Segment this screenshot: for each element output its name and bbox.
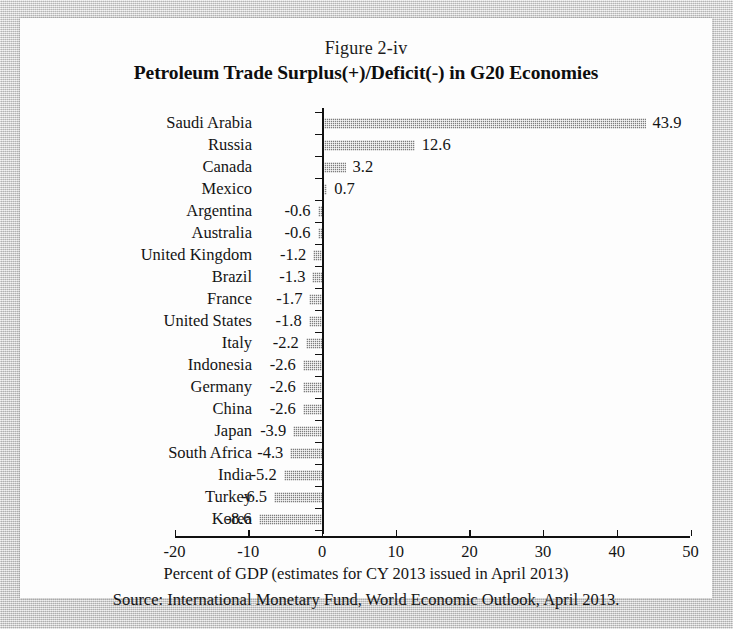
y-axis-tick bbox=[315, 420, 322, 421]
source-note: Source: International Monetary Fund, Wor… bbox=[20, 590, 712, 610]
category-label: Indonesia bbox=[20, 354, 252, 376]
bar-value-label: 12.6 bbox=[422, 134, 451, 156]
bar-value-label: 0.7 bbox=[334, 178, 355, 200]
x-axis-tick bbox=[543, 530, 544, 536]
bar-row: France-1.7 bbox=[20, 288, 712, 310]
x-axis-tick bbox=[322, 530, 323, 536]
y-axis-tick bbox=[315, 442, 322, 443]
bar-value-label: -2.6 bbox=[236, 398, 296, 420]
bar bbox=[322, 162, 346, 173]
y-axis-tick bbox=[315, 222, 322, 223]
y-axis-tick bbox=[315, 310, 322, 311]
category-label: Australia bbox=[20, 222, 252, 244]
y-axis-tick bbox=[315, 266, 322, 267]
bar-row: Mexico0.7 bbox=[20, 178, 712, 200]
x-axis-tick bbox=[691, 530, 692, 536]
bar-row: Russia12.6 bbox=[20, 134, 712, 156]
y-axis-tick bbox=[315, 134, 322, 135]
x-axis-tick bbox=[396, 530, 397, 536]
x-axis-tick-label: 40 bbox=[587, 542, 647, 562]
y-axis-tick bbox=[315, 398, 322, 399]
bar bbox=[309, 316, 322, 327]
y-axis-tick bbox=[315, 376, 322, 377]
bar-row: Germany-2.6 bbox=[20, 376, 712, 398]
category-label: China bbox=[20, 398, 252, 420]
bar bbox=[313, 250, 322, 261]
bar bbox=[309, 294, 322, 305]
bar-row: South Africa-4.3 bbox=[20, 442, 712, 464]
x-axis-tick-label: -10 bbox=[218, 542, 278, 562]
bar-value-label: -2.6 bbox=[236, 376, 296, 398]
bar-value-label: -2.6 bbox=[236, 354, 296, 376]
bar-row: Saudi Arabia43.9 bbox=[20, 112, 712, 134]
x-axis-tick-label: -20 bbox=[145, 542, 205, 562]
x-axis-tick bbox=[469, 530, 470, 536]
category-label: Japan bbox=[20, 420, 252, 442]
bar-value-label: -5.2 bbox=[217, 464, 277, 486]
bar-row: Korea-8.6 bbox=[20, 508, 712, 530]
y-axis-tick bbox=[315, 530, 322, 531]
bar-value-label: -0.6 bbox=[251, 200, 311, 222]
bar bbox=[322, 118, 646, 129]
bar-value-label: -0.6 bbox=[251, 222, 311, 244]
bar-value-label: -1.3 bbox=[245, 266, 305, 288]
x-axis-tick-label: 0 bbox=[292, 542, 352, 562]
y-axis-tick bbox=[315, 508, 322, 509]
chart-title: Petroleum Trade Surplus(+)/Deficit(-) in… bbox=[20, 62, 712, 84]
category-label: Germany bbox=[20, 376, 252, 398]
bar-chart-plot-area: Saudi Arabia43.9Russia12.6Canada3.2Mexic… bbox=[20, 88, 712, 538]
bar-value-label: -6.5 bbox=[207, 486, 267, 508]
bar bbox=[303, 404, 322, 415]
bar bbox=[303, 360, 322, 371]
bar-row: Turkey-6.5 bbox=[20, 486, 712, 508]
category-label: Canada bbox=[20, 156, 252, 178]
y-axis-tick bbox=[315, 178, 322, 179]
figure-number-label: Figure 2-iv bbox=[20, 38, 712, 59]
document-page: Figure 2-iv Petroleum Trade Surplus(+)/D… bbox=[20, 18, 712, 598]
bar-row: Brazil-1.3 bbox=[20, 266, 712, 288]
x-axis-line bbox=[175, 536, 691, 538]
category-label: Russia bbox=[20, 134, 252, 156]
category-label: United Kingdom bbox=[20, 244, 252, 266]
x-axis-tick-label: 30 bbox=[513, 542, 573, 562]
bar bbox=[274, 492, 322, 503]
bar bbox=[306, 338, 322, 349]
bar-row: Australia-0.6 bbox=[20, 222, 712, 244]
bar-value-label: -1.7 bbox=[242, 288, 302, 310]
bar-value-label: -1.8 bbox=[242, 310, 302, 332]
bar-row: Italy-2.2 bbox=[20, 332, 712, 354]
zero-axis-line bbox=[322, 108, 324, 534]
bar bbox=[322, 140, 415, 151]
x-axis-tick-label: 10 bbox=[366, 542, 426, 562]
category-label: Saudi Arabia bbox=[20, 112, 252, 134]
category-label: United States bbox=[20, 310, 252, 332]
bar-value-label: -4.3 bbox=[223, 442, 283, 464]
y-axis-tick bbox=[315, 200, 322, 201]
category-label: Mexico bbox=[20, 178, 252, 200]
bar-value-label: 3.2 bbox=[353, 156, 374, 178]
x-axis-tick-label: 20 bbox=[439, 542, 499, 562]
bar-row: China-2.6 bbox=[20, 398, 712, 420]
bar-row: Japan-3.9 bbox=[20, 420, 712, 442]
bar-value-label: 43.9 bbox=[653, 112, 682, 134]
bar-row: United Kingdom-1.2 bbox=[20, 244, 712, 266]
category-label: South Africa bbox=[20, 442, 252, 464]
bar bbox=[293, 426, 322, 437]
bar bbox=[303, 382, 322, 393]
x-axis-tick-label: 50 bbox=[661, 542, 721, 562]
bar-value-label: -2.2 bbox=[239, 332, 299, 354]
bar-value-label: -8.6 bbox=[192, 508, 252, 530]
y-axis-tick bbox=[315, 354, 322, 355]
y-axis-tick bbox=[315, 112, 322, 113]
x-axis-tick bbox=[248, 530, 249, 536]
bar-row: Indonesia-2.6 bbox=[20, 354, 712, 376]
category-label: Brazil bbox=[20, 266, 252, 288]
y-axis-tick bbox=[315, 244, 322, 245]
x-axis-title: Percent of GDP (estimates for CY 2013 is… bbox=[20, 564, 712, 584]
x-axis-tick bbox=[175, 530, 176, 536]
y-axis-tick bbox=[315, 332, 322, 333]
bar bbox=[290, 448, 322, 459]
category-label: Argentina bbox=[20, 200, 252, 222]
y-axis-tick bbox=[315, 486, 322, 487]
bar-row: Argentina-0.6 bbox=[20, 200, 712, 222]
